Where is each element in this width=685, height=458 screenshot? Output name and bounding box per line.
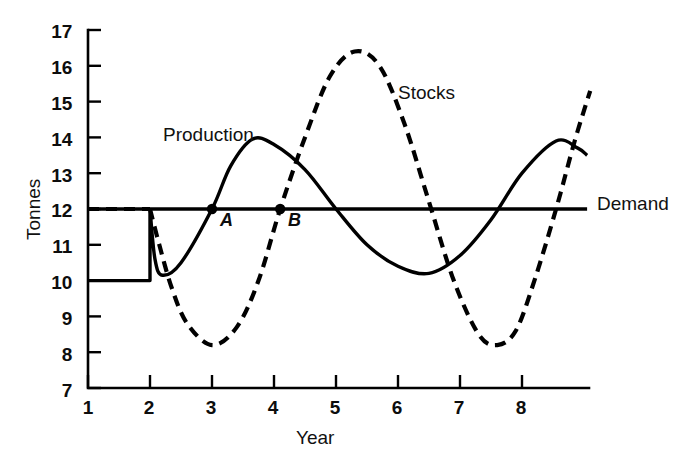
series-label-production: Production [163, 125, 254, 144]
series-line-stocks [88, 51, 590, 345]
chart-container: 17 16 15 14 13 12 11 10 9 8 7 1 2 3 4 5 … [0, 0, 685, 458]
y-tick-9: 9 [42, 309, 72, 328]
y-tick-10: 10 [42, 273, 72, 292]
x-tick-8: 8 [509, 398, 533, 417]
x-tick-5: 5 [323, 398, 347, 417]
x-tick-3: 3 [199, 398, 223, 417]
y-tick-11: 11 [42, 237, 72, 256]
x-tick-1: 1 [76, 398, 100, 417]
annotation-dot-a [207, 204, 217, 214]
x-tick-7: 7 [447, 398, 471, 417]
x-tick-6: 6 [385, 398, 409, 417]
y-tick-12: 12 [42, 201, 72, 220]
series-label-demand: Demand [597, 194, 669, 213]
y-axis-title: Tonnes [24, 179, 43, 240]
data-series [88, 51, 590, 345]
annotation-label-a: A [220, 211, 233, 229]
chart-plot-area [0, 0, 685, 458]
y-tick-16: 16 [42, 58, 72, 77]
x-tick-2: 2 [137, 398, 161, 417]
x-axis-title: Year [296, 428, 334, 447]
y-tick-13: 13 [42, 166, 72, 185]
x-tick-4: 4 [261, 398, 285, 417]
annotation-label-b: B [288, 211, 301, 229]
y-tick-14: 14 [42, 130, 72, 149]
y-tick-17: 17 [42, 22, 72, 41]
series-label-stocks: Stocks [398, 83, 455, 102]
y-tick-15: 15 [42, 94, 72, 113]
y-tick-7: 7 [42, 381, 72, 400]
annotation-dot-b [275, 204, 285, 214]
y-tick-8: 8 [42, 345, 72, 364]
